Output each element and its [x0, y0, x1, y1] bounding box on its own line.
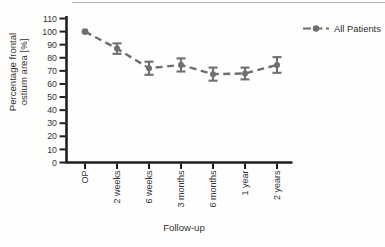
data-point-marker [274, 62, 280, 68]
x-tick-label: 1 year [240, 170, 250, 195]
x-tick-label: OP [80, 171, 90, 184]
y-axis-title: Percentage frontal [7, 33, 18, 111]
y-tick-label: 10 [47, 145, 57, 155]
data-point-marker [242, 70, 248, 76]
y-tick-label: 0 [52, 158, 57, 168]
x-axis-title: Follow-up [163, 222, 205, 233]
legend-dot [313, 25, 319, 31]
y-tick-label: 80 [47, 53, 57, 63]
y-tick-label: 50 [47, 92, 57, 102]
y-axis-title: ostium area [%] [18, 39, 29, 106]
y-tick-label: 30 [47, 118, 57, 128]
legend-line-marker-icon [302, 23, 330, 34]
y-tick-label: 90 [47, 40, 57, 50]
x-tick-label: 2 years [272, 170, 282, 200]
data-point-marker [178, 62, 184, 68]
data-point-marker [210, 71, 216, 77]
y-tick-label: 20 [47, 131, 57, 141]
chart-canvas: 0102030405060708090100110OP2 weeks6 week… [0, 0, 385, 247]
y-tick-label: 110 [43, 14, 57, 24]
data-point-marker [146, 65, 152, 71]
x-tick-label: 6 weeks [144, 170, 154, 204]
x-tick-label: 3 months [176, 170, 186, 208]
y-tick-label: 40 [47, 105, 57, 115]
y-tick-label: 60 [47, 79, 57, 89]
figure: 0102030405060708090100110OP2 weeks6 week… [0, 0, 385, 247]
data-point-marker [114, 46, 120, 52]
y-tick-label: 70 [47, 66, 57, 76]
axes [67, 16, 293, 163]
x-tick-label: 6 months [208, 170, 218, 208]
y-tick-label: 100 [42, 27, 57, 37]
legend: All Patients [302, 23, 381, 34]
legend-label: All Patients [334, 23, 381, 34]
x-tick-label: 2 weeks [112, 170, 122, 204]
data-point-marker [82, 28, 89, 35]
